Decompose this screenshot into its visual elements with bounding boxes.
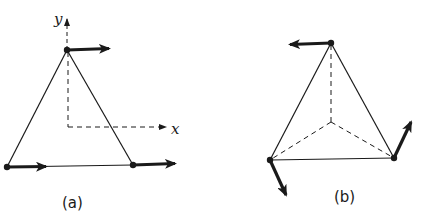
x-axis-label: x (171, 120, 180, 138)
diagram-canvas: y x (a) ( (0, 0, 423, 222)
arrow-left-icon (290, 43, 331, 45)
arrow-right-icon (133, 164, 175, 166)
panel-b: (b) (267, 40, 411, 206)
triangle-edge-left (270, 43, 331, 160)
y-axis-label: y (53, 10, 63, 28)
triangle-edge-right (331, 43, 394, 158)
triangle-edge-right (67, 50, 133, 165)
arrow-right-icon (7, 167, 46, 168)
triangle-edge-bottom (270, 158, 394, 160)
arrow-up-right-icon (394, 122, 411, 158)
arrow-down-right-icon (270, 160, 286, 195)
dashed-center-line-left (270, 122, 331, 160)
arrow-right-icon (67, 49, 109, 51)
panel-b-caption: (b) (334, 188, 355, 206)
panel-a: y x (a) (4, 10, 180, 212)
panel-a-caption: (a) (62, 194, 83, 212)
triangle-edge-left (7, 50, 67, 167)
